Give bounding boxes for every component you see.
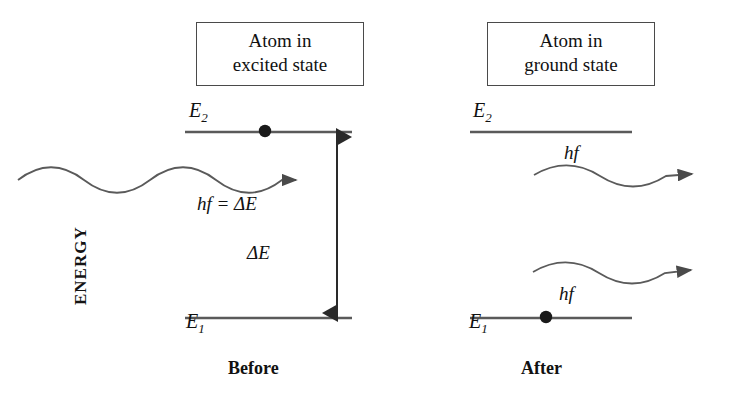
left-lower-level-subscript: 1 bbox=[198, 321, 205, 336]
right-upper-level-letter: E bbox=[473, 99, 485, 121]
outgoing-photon-wave-bottom bbox=[533, 262, 691, 283]
left-upper-level-label: E2 bbox=[189, 99, 208, 126]
left-upper-level-subscript: 2 bbox=[201, 110, 208, 125]
left-lower-level-letter: E bbox=[186, 310, 198, 332]
ground-state-title-box: Atom in ground state bbox=[487, 22, 655, 86]
bottom-photon-label: hf bbox=[559, 283, 574, 305]
transition-energy-label: ΔE bbox=[247, 242, 270, 264]
right-lower-level-subscript: 1 bbox=[481, 321, 488, 336]
right-upper-level-label: E2 bbox=[473, 99, 492, 126]
photon-energy-equation: hf = ΔE bbox=[197, 193, 257, 215]
right-lower-level-label: E1 bbox=[469, 310, 488, 337]
energy-arrow-label: ENERGY bbox=[71, 185, 91, 305]
right-lower-level-letter: E bbox=[469, 310, 481, 332]
excited-state-title-box: Atom in excited state bbox=[196, 22, 364, 86]
left-electron-dot bbox=[259, 125, 271, 137]
before-caption: Before bbox=[228, 358, 279, 379]
outgoing-photon-wave-top bbox=[534, 165, 692, 186]
right-electron-dot bbox=[540, 311, 552, 323]
top-photon-label: hf bbox=[564, 142, 579, 164]
stimulated-emission-diagram: Atom in excited state Atom in ground sta… bbox=[0, 0, 740, 406]
left-upper-level-letter: E bbox=[189, 99, 201, 121]
left-lower-level-label: E1 bbox=[186, 310, 205, 337]
after-caption: After bbox=[521, 358, 562, 379]
right-upper-level-subscript: 2 bbox=[485, 110, 492, 125]
incoming-photon-wave bbox=[18, 167, 296, 193]
